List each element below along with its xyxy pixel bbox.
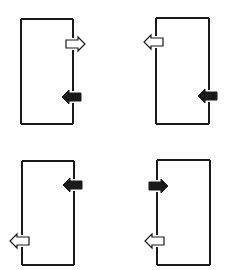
hollow-arrow-left-icon [144, 35, 163, 49]
panel-bottom-right [145, 160, 210, 265]
filled-arrow-left-icon [198, 89, 217, 103]
panel-top-left [21, 19, 85, 124]
filled-arrow-right-icon [149, 179, 168, 193]
diagram-canvas [0, 0, 227, 270]
hollow-arrow-left-icon [10, 234, 29, 248]
filled-arrow-left-icon [62, 90, 81, 104]
panel-bottom-left [10, 161, 82, 265]
hollow-arrow-right-icon [66, 37, 85, 51]
filled-arrow-left-icon [63, 178, 82, 192]
hollow-arrow-left-icon [145, 234, 164, 248]
panel-top-right [144, 18, 217, 124]
